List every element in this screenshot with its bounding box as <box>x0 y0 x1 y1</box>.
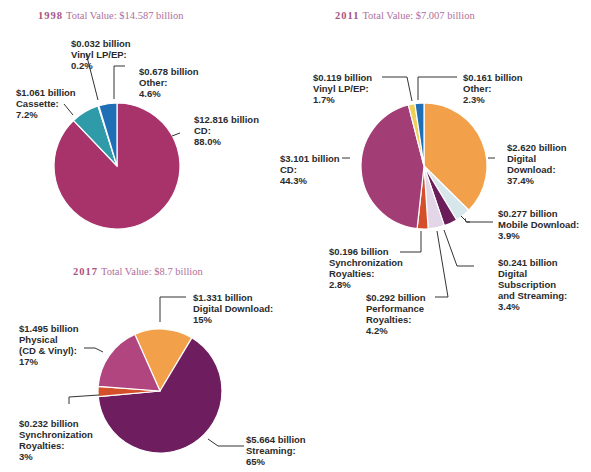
label-2017-sync: $0.232 billionSynchronizationRoyalties:3… <box>19 418 93 462</box>
label-2011-mobile-download: $0.277 billionMobile Download:3.9% <box>498 208 579 241</box>
label-2011-digital-download: $2.620 billionDigitalDownload:37.4% <box>507 142 567 186</box>
label-2011-cd: $3.101 billionCD:44.3% <box>280 153 340 186</box>
pie-chart-2011 <box>361 103 487 229</box>
pie-chart-1998 <box>54 103 180 229</box>
label-2011-subscription: $0.241 billionDigitalSubscriptionand Str… <box>498 257 567 312</box>
label-1998-cd: $12.816 billionCD:88.0% <box>194 114 259 147</box>
pie-chart-2017 <box>98 329 222 453</box>
label-2017-digital-download: $1.331 billionDigital Download:15% <box>193 292 273 325</box>
label-1998-vinyl: $0.032 billionVinyl LP/EP:0.2% <box>71 38 131 71</box>
label-2011-performance: $0.292 billionPerformanceRoyalties:4.2% <box>366 292 426 336</box>
label-1998-cassette: $1.061 billionCassette:7.2% <box>16 87 76 120</box>
label-2011-sync: $0.196 billionSynchronizationRoyalties:2… <box>329 246 403 290</box>
label-2017-streaming: $5.664 billionStreaming:65% <box>246 434 306 467</box>
label-2011-vinyl: $0.119 billionVinyl LP/EP:1.7% <box>313 72 372 105</box>
label-1998-other: $0.678 billionOther:4.6% <box>139 66 199 99</box>
label-2017-physical: $1.495 billionPhysical(CD & Vinyl):17% <box>19 323 79 367</box>
label-2011-other: $0.161 billionOther:2.3% <box>463 72 523 105</box>
